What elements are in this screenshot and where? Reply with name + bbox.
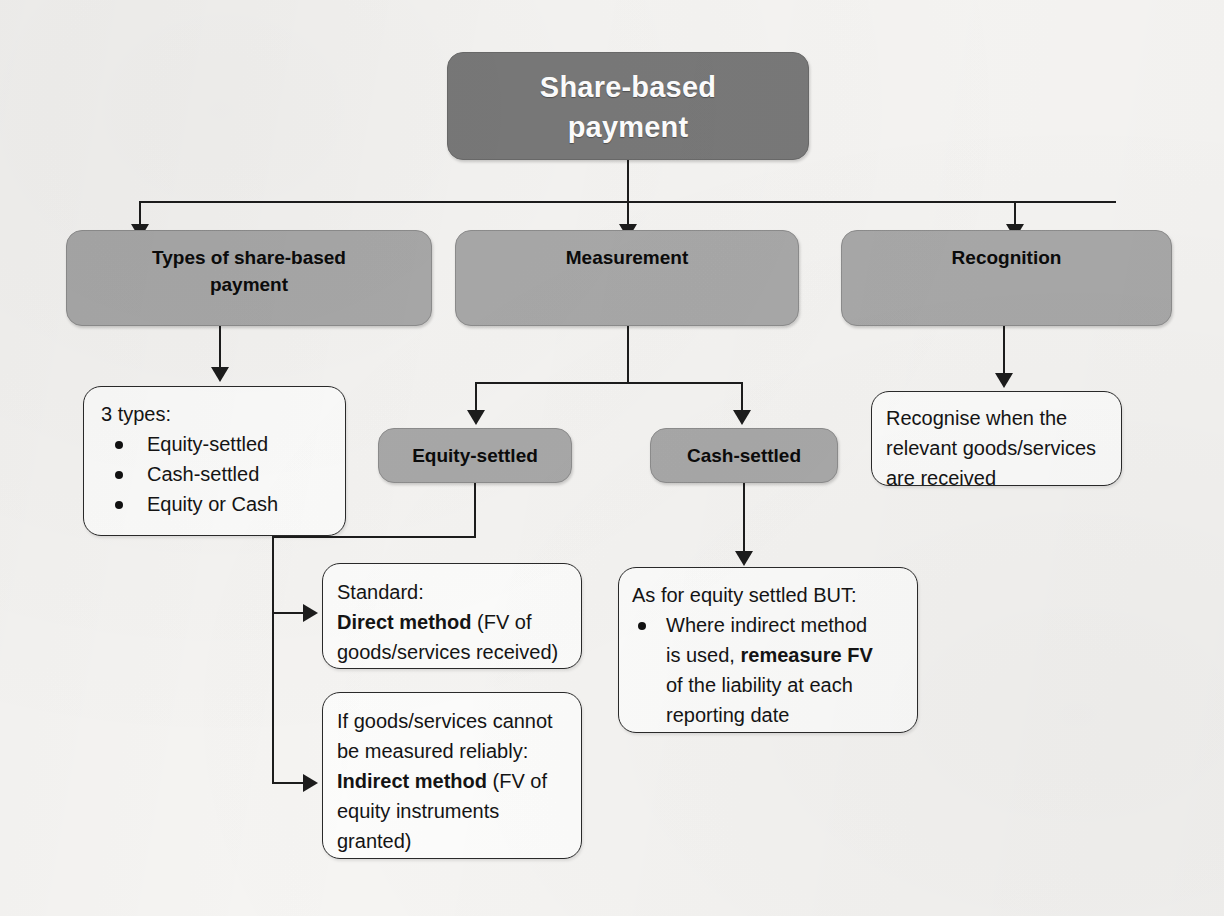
connector-equity-settled-stem bbox=[474, 483, 476, 538]
box-cash-settled-detail[interactable]: As for equity settled BUT: Where indirec… bbox=[618, 567, 918, 733]
box-recognition-line-1: Recognise when the bbox=[886, 403, 1113, 433]
node-types-line-1: Types of share-based bbox=[67, 244, 431, 271]
box-indirect-method[interactable]: If goods/services cannot be measured rel… bbox=[322, 692, 582, 859]
node-recognition-label: Recognition bbox=[842, 244, 1171, 271]
connector-types-to-types-detail bbox=[219, 326, 221, 370]
list-item: Cash-settled bbox=[101, 459, 335, 489]
connector-equity-settled-turn bbox=[272, 536, 476, 538]
box-direct-method[interactable]: Standard: Direct method (FV of goods/ser… bbox=[322, 563, 582, 669]
box-indirect-method-bold: Indirect method bbox=[337, 770, 487, 792]
arrow-cash-settled-to-detail bbox=[735, 551, 753, 566]
list-item: Equity or Cash bbox=[101, 489, 335, 519]
node-types-line-2: payment bbox=[67, 271, 431, 298]
node-cash-settled-label: Cash-settled bbox=[651, 443, 837, 469]
box-direct-method-after-bold: (FV of bbox=[471, 611, 531, 633]
box-indirect-method-content: If goods/services cannot be measured rel… bbox=[337, 706, 573, 856]
node-measurement-label: Measurement bbox=[456, 244, 798, 271]
connector-bus-to-equity-settled bbox=[475, 382, 477, 413]
box-indirect-method-line-4: equity instruments bbox=[337, 796, 573, 826]
arrow-bus-to-cash-settled bbox=[733, 410, 751, 425]
box-cash-settled-bullet-line-2-bold: remeasure FV bbox=[740, 644, 872, 666]
connector-bus-to-cash-settled bbox=[741, 382, 743, 413]
box-direct-method-line-2: Direct method (FV of bbox=[337, 607, 573, 637]
connector-rail-to-direct-method bbox=[272, 612, 306, 614]
box-three-types-content: 3 types: Equity-settled Cash-settled Equ… bbox=[101, 399, 335, 519]
box-cash-settled-bullet-line-2-pre: is used, bbox=[666, 644, 740, 666]
box-indirect-method-line-2: be measured reliably: bbox=[337, 736, 573, 766]
box-indirect-method-line-5: granted) bbox=[337, 826, 573, 856]
box-three-types-bullet-list: Equity-settled Cash-settled Equity or Ca… bbox=[101, 429, 335, 519]
node-measurement[interactable]: Measurement bbox=[455, 230, 799, 326]
connector-measurement-bus bbox=[475, 382, 743, 384]
list-item: Equity-settled bbox=[101, 429, 335, 459]
arrow-bus-to-equity-settled bbox=[467, 410, 485, 425]
box-recognition-detail[interactable]: Recognise when the relevant goods/servic… bbox=[871, 391, 1122, 486]
box-cash-settled-bullet-line-1: Where indirect method bbox=[666, 614, 867, 636]
connector-recognition-to-detail bbox=[1003, 326, 1005, 376]
node-title-line-2: payment bbox=[448, 107, 808, 147]
node-share-based-payment[interactable]: Share-based payment bbox=[447, 52, 809, 160]
box-cash-settled-bullet-line-3: of the liability at each bbox=[666, 674, 853, 696]
box-cash-settled-bullet-list: Where indirect method is used, remeasure… bbox=[632, 610, 909, 730]
box-three-types[interactable]: 3 types: Equity-settled Cash-settled Equ… bbox=[83, 386, 346, 536]
connector-root-stem bbox=[627, 160, 629, 203]
connector-measurement-stem bbox=[627, 326, 629, 384]
box-indirect-method-line-3: Indirect method (FV of bbox=[337, 766, 573, 796]
node-title-line-1: Share-based bbox=[448, 67, 808, 107]
box-direct-method-bold: Direct method bbox=[337, 611, 471, 633]
box-cash-settled-detail-content: As for equity settled BUT: Where indirec… bbox=[632, 580, 909, 730]
arrow-rail-to-direct-method bbox=[303, 604, 318, 622]
box-direct-method-line-1: Standard: bbox=[337, 577, 573, 607]
box-three-types-heading: 3 types: bbox=[101, 399, 335, 429]
connector-cash-settled-to-detail bbox=[743, 483, 745, 555]
arrow-rail-to-indirect-method bbox=[303, 774, 318, 792]
arrow-types-to-types-detail bbox=[211, 367, 229, 382]
box-indirect-method-line-1: If goods/services cannot bbox=[337, 706, 573, 736]
node-cash-settled[interactable]: Cash-settled bbox=[650, 428, 838, 483]
box-direct-method-content: Standard: Direct method (FV of goods/ser… bbox=[337, 577, 573, 667]
node-recognition[interactable]: Recognition bbox=[841, 230, 1172, 326]
arrow-recognition-to-detail bbox=[995, 373, 1013, 388]
box-indirect-method-after-bold: (FV of bbox=[487, 770, 547, 792]
box-direct-method-line-3: goods/services received) bbox=[337, 637, 573, 667]
connector-rail-to-indirect-method bbox=[272, 782, 306, 784]
diagram-canvas: Share-based payment Types of share-based… bbox=[0, 0, 1224, 916]
box-cash-settled-heading: As for equity settled BUT: bbox=[632, 580, 909, 610]
node-types-of-share-based-payment[interactable]: Types of share-based payment bbox=[66, 230, 432, 326]
box-recognition-detail-content: Recognise when the relevant goods/servic… bbox=[886, 403, 1113, 493]
list-item: Where indirect method is used, remeasure… bbox=[632, 610, 909, 730]
box-recognition-line-3: are received bbox=[886, 463, 1113, 493]
node-equity-settled-label: Equity-settled bbox=[379, 443, 571, 469]
node-equity-settled[interactable]: Equity-settled bbox=[378, 428, 572, 483]
box-recognition-line-2: relevant goods/services bbox=[886, 433, 1113, 463]
connector-equity-settled-rail bbox=[272, 536, 274, 784]
box-cash-settled-bullet-line-4: reporting date bbox=[666, 704, 789, 726]
